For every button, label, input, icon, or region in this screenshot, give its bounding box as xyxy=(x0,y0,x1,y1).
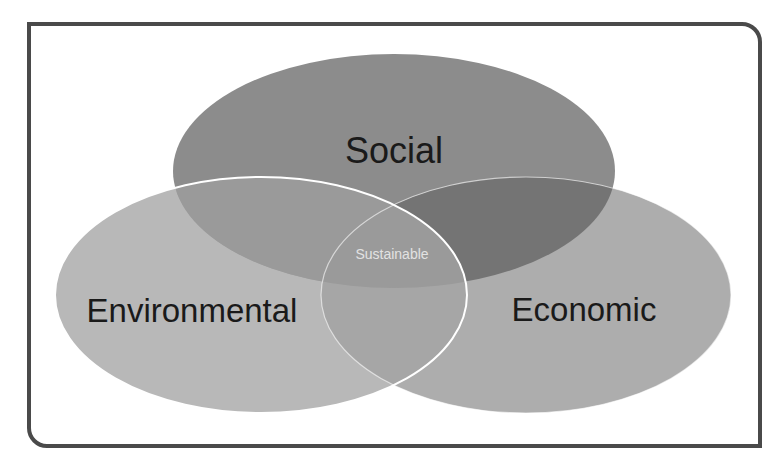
venn-diagram: Social Environmental Economic Sustainabl… xyxy=(0,0,772,460)
social-label: Social xyxy=(345,130,443,171)
environmental-label: Environmental xyxy=(87,292,298,329)
economic-label: Economic xyxy=(512,291,657,328)
sustainable-label: Sustainable xyxy=(355,246,428,262)
